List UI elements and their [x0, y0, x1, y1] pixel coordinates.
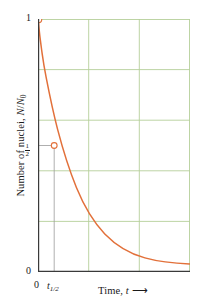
x-tick-zero-label: 0: [34, 279, 39, 290]
horizontal-gridlines: [38, 20, 190, 222]
vertical-gridlines: [89, 19, 190, 272]
y-axis-symbol-n0: N: [15, 98, 26, 105]
fraction-one-half: 1 2: [25, 143, 30, 158]
y-axis-symbol-n: N: [15, 108, 26, 115]
half-life-point-marker: [51, 143, 57, 149]
axis-lines: [38, 19, 190, 272]
plot-area: [38, 19, 190, 272]
y-tick-half-label: 1 2: [25, 143, 30, 158]
plot-svg: [38, 19, 190, 272]
fraction-denominator: 2: [25, 151, 30, 158]
x-axis-label-text: Time,: [98, 285, 126, 296]
x-axis-symbol-t: t: [126, 285, 129, 296]
decay-curve-figure: Number of nuclei, N/N0 1 1 2 0 0 t1/2 Ti…: [0, 0, 202, 303]
y-tick-zero-label: 0: [26, 265, 31, 276]
right-arrow-icon: ⟶: [132, 284, 147, 296]
decay-curve-path: [38, 19, 190, 264]
y-axis-subscript-zero: 0: [19, 94, 28, 98]
y-axis-slash: /: [15, 105, 26, 108]
x-tick-subscript: 1/2: [50, 285, 59, 293]
y-tick-one-label: 1: [26, 12, 31, 23]
x-tick-half-life-label: t1/2: [47, 280, 59, 293]
x-axis-label: Time, t⟶: [98, 284, 147, 296]
half-life-guide-lines: [38, 146, 54, 273]
